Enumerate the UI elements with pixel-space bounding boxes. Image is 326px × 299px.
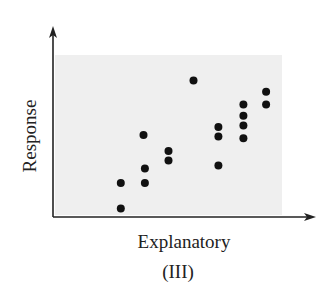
x-axis-label: Explanatory [138, 231, 231, 252]
data-point [239, 112, 247, 120]
data-point [141, 179, 149, 187]
data-point [214, 161, 222, 169]
data-point [239, 101, 247, 109]
scatter-chart: Response Explanatory (III) [0, 0, 326, 299]
y-axis-label: Response [19, 100, 40, 173]
data-point [239, 121, 247, 129]
data-point [141, 165, 149, 173]
data-point [214, 123, 222, 131]
data-point [117, 179, 125, 187]
data-point [140, 131, 148, 139]
data-point [165, 147, 173, 155]
plot-area-background [55, 55, 282, 215]
data-point [262, 101, 270, 109]
data-point [165, 157, 173, 165]
data-point [214, 133, 222, 141]
chart-caption: (III) [162, 261, 194, 283]
data-point [239, 134, 247, 142]
data-point [190, 77, 198, 85]
data-point [262, 88, 270, 96]
data-point [117, 205, 125, 213]
